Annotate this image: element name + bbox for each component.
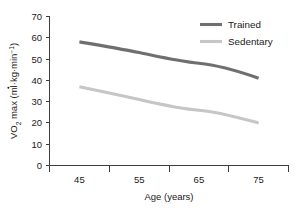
x-tick-labels: 45 55 65 75 xyxy=(74,174,264,185)
y-axis-title-text: VO2 max (ml·kg·min−1) xyxy=(8,43,22,139)
y-tick-labels: 0 10 20 30 40 50 60 70 xyxy=(31,11,42,171)
v-dot-overdot-icon xyxy=(7,87,9,89)
y-tick-label-30: 30 xyxy=(31,96,42,107)
y-axis-title-o: O xyxy=(8,125,19,132)
series-line-trained xyxy=(79,42,258,78)
y-tick-label-50: 50 xyxy=(31,54,42,65)
x-tick-marks xyxy=(50,166,289,172)
y-axis-title: VO2 max (ml·kg·min−1) xyxy=(7,43,21,139)
y-tick-label-70: 70 xyxy=(31,11,42,22)
y-tick-marks xyxy=(46,17,50,166)
x-tick-label-65: 65 xyxy=(194,174,205,185)
vo2max-line-chart: 0 10 20 30 40 50 60 70 45 55 65 75 Age (… xyxy=(0,0,302,210)
y-tick-label-0: 0 xyxy=(37,160,42,171)
series-line-sedentary xyxy=(79,87,258,123)
y-axis-title-close: ) xyxy=(8,43,19,46)
legend-label-trained: Trained xyxy=(228,19,261,30)
x-tick-label-75: 75 xyxy=(253,174,264,185)
y-tick-label-60: 60 xyxy=(31,32,42,43)
y-tick-label-20: 20 xyxy=(31,117,42,128)
y-tick-label-10: 10 xyxy=(31,139,42,150)
x-tick-label-55: 55 xyxy=(134,174,145,185)
data-series-group xyxy=(79,42,258,123)
x-tick-label-45: 45 xyxy=(74,174,85,185)
x-axis-title: Age (years) xyxy=(144,191,193,202)
y-tick-label-40: 40 xyxy=(31,75,42,86)
y-axis-title-max: max (ml·kg·min xyxy=(8,54,19,122)
legend: Trained Sedentary xyxy=(200,19,273,47)
legend-label-sedentary: Sedentary xyxy=(228,36,273,47)
chart-figure: 0 10 20 30 40 50 60 70 45 55 65 75 Age (… xyxy=(0,0,302,210)
